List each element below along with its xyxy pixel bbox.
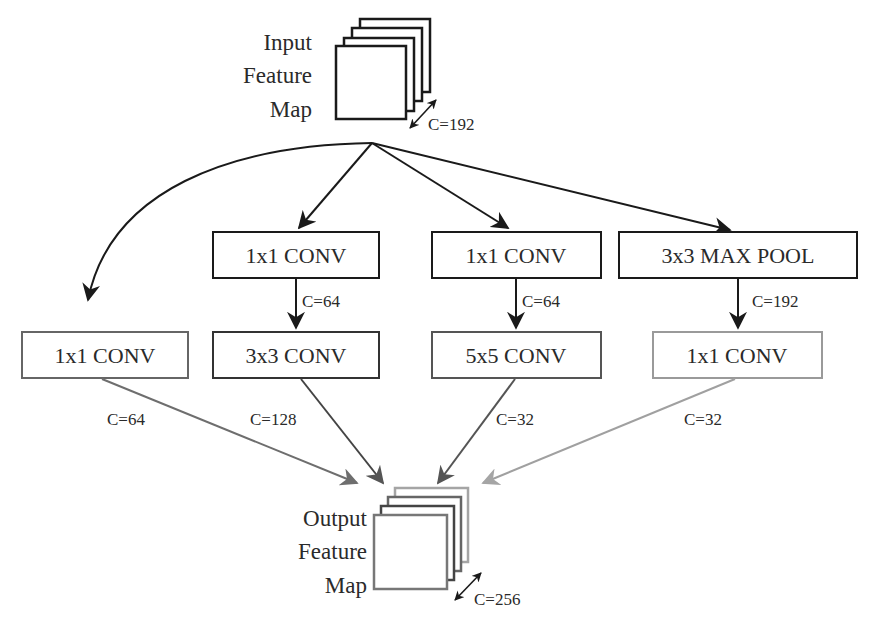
branch3-reduce-channels: C=64: [522, 292, 560, 311]
output-stack-icon: [374, 488, 468, 589]
branch2-out-arrow: [301, 379, 383, 483]
branch1-out-arrow: [102, 379, 357, 483]
branch3-out-channels: C=32: [496, 410, 534, 429]
branch2-out-channels: C=128: [250, 410, 296, 429]
inception-module-diagram: Input Feature Map C=192 1x1 CONV C=64 1x…: [0, 0, 870, 625]
input-title-line-1: Input: [263, 30, 312, 55]
branch1-conv1x1-label: 1x1 CONV: [55, 343, 156, 368]
arrow-to-branch-5x5: [372, 143, 508, 228]
input-stack-icon: [336, 19, 430, 119]
input-channels-label: C=192: [428, 115, 474, 134]
branch4-pool-channels: C=192: [752, 292, 798, 311]
output-feature-map: Output Feature Map C=256: [298, 488, 520, 609]
branch2-main-label: 3x3 CONV: [246, 343, 347, 368]
output-title-line-3: Map: [325, 573, 367, 598]
output-title-line-1: Output: [303, 506, 368, 531]
branch3-reduce-label: 1x1 CONV: [466, 243, 567, 268]
input-feature-map: Input Feature Map C=192: [243, 19, 474, 134]
branch1-out-channels: C=64: [107, 410, 145, 429]
branch4-out-arrow: [483, 379, 735, 483]
arrow-to-branch-3x3: [299, 143, 372, 228]
branch4-pool-label: 3x3 MAX POOL: [662, 243, 815, 268]
output-channels-label: C=256: [474, 590, 520, 609]
branch3-out-arrow: [438, 379, 515, 483]
branch-3x3: 1x1 CONV C=64 3x3 CONV C=128: [213, 232, 383, 483]
output-title-line-2: Feature: [298, 539, 367, 564]
arrow-to-branch-pool: [372, 143, 730, 230]
input-title-line-2: Feature: [243, 63, 312, 88]
branch2-reduce-label: 1x1 CONV: [246, 243, 347, 268]
branch3-main-label: 5x5 CONV: [466, 343, 567, 368]
branch4-out-channels: C=32: [684, 410, 722, 429]
branch4-proj-label: 1x1 CONV: [687, 343, 788, 368]
input-title-line-3: Map: [270, 97, 312, 122]
branch2-reduce-channels: C=64: [302, 292, 340, 311]
